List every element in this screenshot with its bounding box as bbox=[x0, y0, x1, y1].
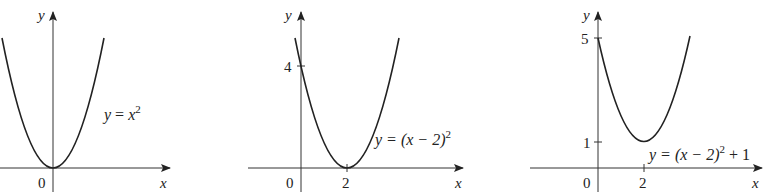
parabola-curve bbox=[598, 36, 690, 142]
panel-y-equals-x-squared: y x 0 y = x2 bbox=[0, 7, 170, 192]
parabola-curve bbox=[295, 38, 399, 168]
origin-label: 0 bbox=[583, 175, 591, 191]
origin-label: 0 bbox=[286, 175, 294, 191]
equation-label: y = (x − 2)2 + 1 bbox=[647, 143, 750, 164]
y-axis-label: y bbox=[36, 7, 45, 23]
equation-label: y = x2 bbox=[102, 103, 141, 124]
parabola-figure: y x 0 y = x2 y x 0 2 4 y = (x − 2)2 y x … bbox=[0, 0, 763, 192]
panel-y-equals-x-minus-2-squared: y x 0 2 4 y = (x − 2)2 bbox=[248, 7, 463, 192]
x-tick-label-2: 2 bbox=[342, 175, 350, 191]
y-axis-label: y bbox=[283, 7, 292, 23]
panel-y-equals-x-minus-2-squared-plus-1: y x 0 2 5 1 y = (x − 2)2 + 1 bbox=[530, 7, 762, 192]
y-tick-label-4: 4 bbox=[284, 59, 292, 75]
y-tick-label-1: 1 bbox=[583, 135, 591, 151]
x-axis-label: x bbox=[454, 175, 462, 191]
origin-label: 0 bbox=[38, 175, 46, 191]
x-axis-label: x bbox=[159, 175, 167, 191]
x-axis-label: x bbox=[751, 175, 759, 191]
equation-label: y = (x − 2)2 bbox=[373, 128, 451, 149]
y-tick-label-5: 5 bbox=[581, 31, 589, 47]
y-axis-label: y bbox=[581, 7, 590, 23]
x-tick-label-2: 2 bbox=[639, 175, 647, 191]
